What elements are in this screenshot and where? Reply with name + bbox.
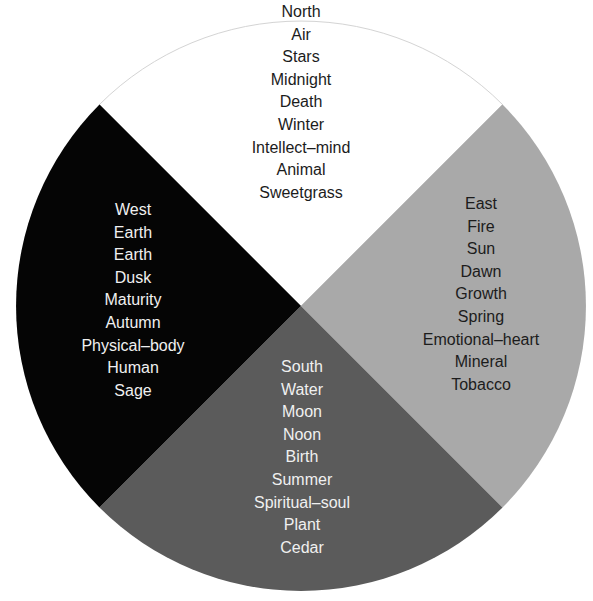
north-label-season: Winter — [252, 114, 351, 137]
west-label-aspect: Physical–body — [81, 335, 184, 358]
east-label-medicine: Tobacco — [423, 374, 540, 397]
east-label-season: Spring — [423, 306, 540, 329]
east-label-kingdom: Mineral — [423, 351, 540, 374]
north-label-celestial: Stars — [252, 46, 351, 69]
west-labels: West Earth Earth Dusk Maturity Autumn Ph… — [81, 199, 184, 402]
south-label-medicine: Cedar — [254, 537, 350, 560]
west-label-time: Dusk — [81, 267, 184, 290]
south-label-celestial: Moon — [254, 401, 350, 424]
north-label-life-stage: Death — [252, 91, 351, 114]
west-label-life-stage: Maturity — [81, 289, 184, 312]
north-label-aspect: Intellect–mind — [252, 137, 351, 160]
south-label-season: Summer — [254, 469, 350, 492]
east-labels: East Fire Sun Dawn Growth Spring Emotion… — [423, 193, 540, 396]
south-labels: South Water Moon Noon Birth Summer Spiri… — [254, 356, 350, 559]
west-label-celestial: Earth — [81, 244, 184, 267]
north-label-time: Midnight — [252, 69, 351, 92]
north-labels: North Air Stars Midnight Death Winter In… — [252, 1, 351, 204]
east-label-element: Fire — [423, 216, 540, 239]
north-label-element: Air — [252, 24, 351, 47]
south-label-kingdom: Plant — [254, 514, 350, 537]
south-label-life-stage: Birth — [254, 446, 350, 469]
south-label-direction: South — [254, 356, 350, 379]
west-label-kingdom: Human — [81, 357, 184, 380]
west-label-season: Autumn — [81, 312, 184, 335]
east-label-time: Dawn — [423, 261, 540, 284]
south-label-element: Water — [254, 379, 350, 402]
north-label-direction: North — [252, 1, 351, 24]
south-label-time: Noon — [254, 424, 350, 447]
west-label-medicine: Sage — [81, 380, 184, 403]
east-label-celestial: Sun — [423, 238, 540, 261]
north-label-medicine: Sweetgrass — [252, 182, 351, 205]
east-label-direction: East — [423, 193, 540, 216]
east-label-aspect: Emotional–heart — [423, 329, 540, 352]
east-label-life-stage: Growth — [423, 283, 540, 306]
west-label-direction: West — [81, 199, 184, 222]
west-label-element: Earth — [81, 222, 184, 245]
south-label-aspect: Spiritual–soul — [254, 492, 350, 515]
north-label-kingdom: Animal — [252, 159, 351, 182]
